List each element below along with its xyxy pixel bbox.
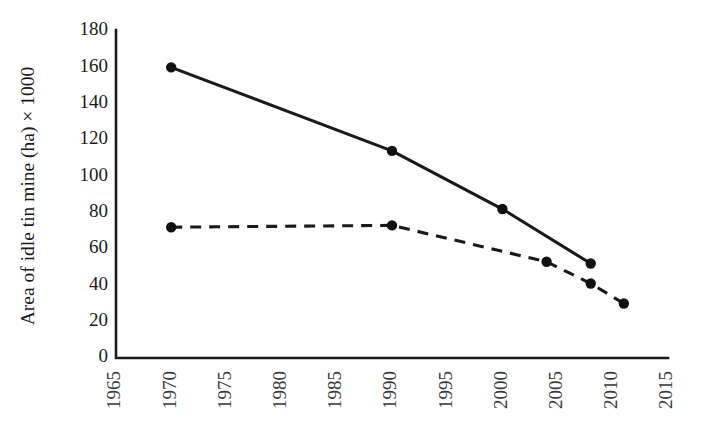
data-point-marker [166, 62, 176, 72]
series-solid-line [171, 67, 591, 263]
y-tick-label: 60 [89, 236, 108, 257]
x-tick-label: 2010 [600, 371, 621, 409]
data-point-marker [387, 146, 397, 156]
x-tick-label: 1975 [214, 371, 235, 409]
chart-container: Area of idle tin mine (ha) × 1000 020406… [0, 0, 709, 436]
data-point-marker [541, 257, 551, 267]
x-tick-label: 1990 [379, 371, 400, 409]
x-tick-label: 2015 [655, 371, 676, 409]
y-tick-label: 100 [80, 164, 109, 185]
series-solid-markers [166, 62, 596, 269]
data-point-marker [166, 222, 176, 232]
y-axis-title: Area of idle tin mine (ha) × 1000 [17, 67, 39, 325]
x-tick-label: 1995 [435, 371, 456, 409]
series-dashed-markers [166, 220, 629, 309]
y-tick-label: 80 [89, 200, 108, 221]
x-tick-label: 2005 [545, 371, 566, 409]
y-tick-label: 0 [99, 345, 109, 366]
series-dashed-line [171, 225, 624, 303]
x-tick-label: 1985 [324, 371, 345, 409]
y-tick-label: 20 [89, 309, 108, 330]
line-chart: Area of idle tin mine (ha) × 1000 020406… [0, 0, 709, 436]
data-point-marker [387, 220, 397, 230]
y-axis-title-group: Area of idle tin mine (ha) × 1000 [17, 67, 39, 325]
x-tick-label: 1970 [159, 371, 180, 409]
data-point-marker [586, 258, 596, 268]
x-tick-label: 1980 [269, 371, 290, 409]
y-tick-label: 140 [80, 91, 109, 112]
x-axis-tick-labels: 1965197019751980198519901995200020052010… [103, 371, 676, 409]
data-point-marker [497, 204, 507, 214]
x-tick-label: 2000 [490, 371, 511, 409]
y-tick-label: 40 [89, 273, 108, 294]
y-tick-label: 180 [80, 18, 109, 39]
y-axis-tick-labels: 020406080100120140160180 [80, 18, 109, 366]
x-tick-label: 1965 [103, 371, 124, 409]
data-point-marker [586, 278, 596, 288]
data-point-marker [619, 298, 629, 308]
y-tick-label: 160 [80, 55, 109, 76]
y-tick-label: 120 [80, 127, 109, 148]
